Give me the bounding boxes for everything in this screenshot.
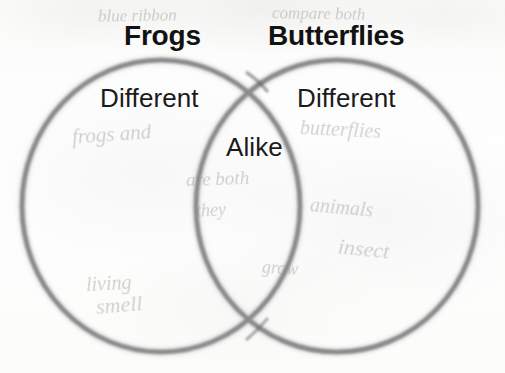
label-different-left: Different <box>100 83 199 114</box>
label-alike-overlap: Alike <box>226 132 283 163</box>
heading-frogs: Frogs <box>124 20 201 52</box>
venn-diagram-worksheet: frogs andbutterfliesare boththeyanimalsi… <box>0 0 505 373</box>
heading-butterflies: Butterflies <box>268 20 404 52</box>
venn-circles <box>0 0 505 373</box>
label-different-right: Different <box>297 83 396 114</box>
